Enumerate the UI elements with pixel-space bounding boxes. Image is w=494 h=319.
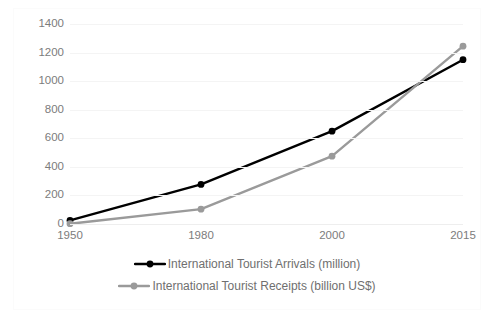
legend-marker-icon	[118, 280, 150, 292]
y-axis-tick-label: 1200	[18, 47, 64, 59]
data-point-marker	[329, 153, 336, 160]
y-axis-tick-label: 1000	[18, 75, 64, 87]
legend-item-label: International Tourist Receipts (billion …	[152, 280, 375, 292]
x-axis-tick-label: 1980	[188, 230, 214, 242]
axis-baseline	[70, 224, 463, 225]
x-axis: 1950198020002015	[70, 230, 463, 248]
gridline	[70, 81, 463, 82]
y-axis-tick-label: 200	[18, 190, 64, 202]
y-axis-tick-label: 1400	[18, 18, 64, 30]
legend-item: International Tourist Arrivals (million)	[134, 256, 361, 271]
series-line	[70, 46, 463, 224]
x-axis-tick-label: 1950	[57, 230, 83, 242]
series-layer	[70, 24, 463, 224]
legend-marker-icon	[134, 258, 166, 270]
chart-legend: International Tourist Arrivals (million)…	[0, 256, 494, 293]
data-point-marker	[198, 206, 205, 213]
gridline	[70, 24, 463, 25]
plot-area	[70, 24, 463, 224]
gridline	[70, 110, 463, 111]
gridline	[70, 167, 463, 168]
data-point-marker	[460, 43, 467, 50]
gridline	[70, 53, 463, 54]
legend-item: International Tourist Receipts (billion …	[118, 278, 375, 293]
y-axis-tick-label: 800	[18, 104, 64, 116]
x-axis-tick-label: 2015	[450, 230, 476, 242]
data-point-marker	[329, 128, 336, 135]
y-axis: 1400120010008006004002000	[18, 24, 64, 224]
gridline	[70, 195, 463, 196]
tourism-line-chart: 1400120010008006004002000 19501980200020…	[0, 0, 494, 319]
legend-item-label: International Tourist Arrivals (million)	[168, 258, 361, 270]
gridline	[70, 138, 463, 139]
y-axis-tick-label: 400	[18, 161, 64, 173]
y-axis-tick-label: 600	[18, 133, 64, 145]
data-point-marker	[460, 56, 467, 63]
data-point-marker	[198, 181, 205, 188]
x-axis-tick-label: 2000	[319, 230, 345, 242]
